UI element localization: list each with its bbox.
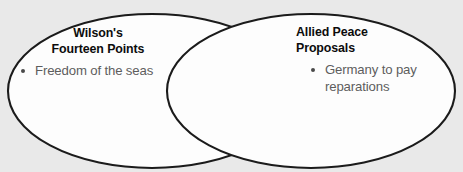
venn-set-left-heading-line-2: Fourteen Points xyxy=(20,42,176,58)
venn-set-right-item-text: Germany to pay reparations xyxy=(325,62,417,94)
venn-set-right-heading-line-1: Allied Peace xyxy=(296,25,448,41)
list-item: Freedom of the seas xyxy=(18,63,178,80)
venn-set-left-item-list: Freedom of the seas xyxy=(18,63,178,80)
bullet-icon xyxy=(311,68,315,72)
venn-text-layer: Wilson's Fourteen Points Freedom of the … xyxy=(0,0,463,172)
venn-set-right-heading-line-2: Proposals xyxy=(296,41,448,57)
list-item: Germany to pay reparations xyxy=(308,62,448,95)
venn-diagram: Wilson's Fourteen Points Freedom of the … xyxy=(0,0,463,172)
venn-set-left-heading-line-1: Wilson's xyxy=(20,26,176,42)
venn-set-right-heading: Allied Peace Proposals xyxy=(296,25,448,56)
venn-set-right-item-list: Germany to pay reparations xyxy=(296,62,448,95)
venn-set-right: Allied Peace Proposals Germany to pay re… xyxy=(296,25,448,95)
venn-set-left-heading: Wilson's Fourteen Points xyxy=(18,26,178,57)
bullet-icon xyxy=(21,69,25,73)
venn-set-left: Wilson's Fourteen Points Freedom of the … xyxy=(18,26,178,80)
venn-set-left-item-text: Freedom of the seas xyxy=(35,63,153,78)
